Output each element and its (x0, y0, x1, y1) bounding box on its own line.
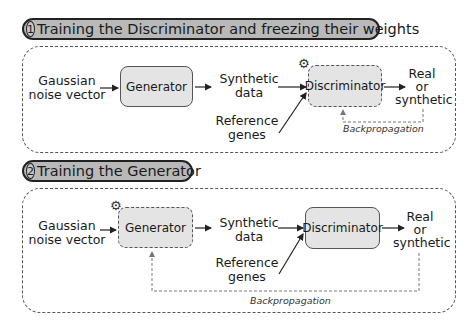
backprop-loop-1 (343, 109, 423, 122)
arrow-reference-to-discriminator (279, 93, 306, 133)
arrow-reference-to-discriminator (279, 234, 303, 274)
arrows-layer (0, 0, 472, 330)
backprop-loop-2 (152, 252, 419, 291)
